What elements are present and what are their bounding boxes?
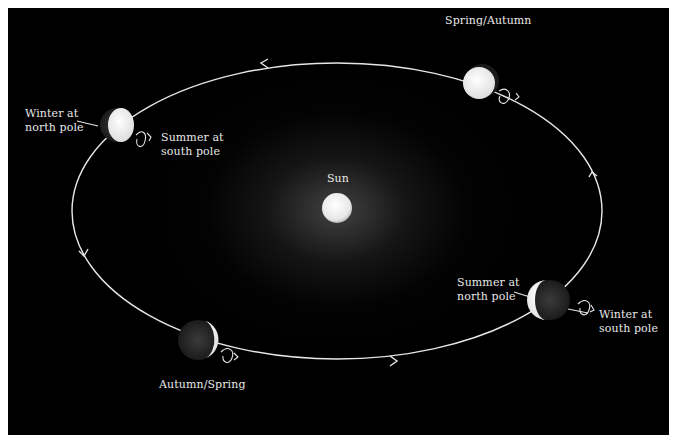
orbit-arrow-bottom	[390, 356, 397, 366]
summer-south-label-top-left: Summer at south pole	[161, 131, 224, 159]
orbit-arrow-left	[79, 249, 88, 256]
diagram-panel: Sun Winter at north pole Summer at south…	[8, 8, 669, 435]
earth-top-left	[77, 108, 151, 147]
autumn-spring-label: Autumn/Spring	[159, 378, 246, 392]
winter-south-label-bottom-right: Winter at south pole	[599, 308, 658, 336]
earth-bottom-left	[178, 320, 238, 362]
orbit-arrow-top	[261, 59, 268, 68]
orbit-diagram	[8, 8, 669, 435]
earth-top-right	[463, 64, 519, 103]
winter-north-label-top-left: Winter at north pole	[25, 107, 84, 135]
sun	[322, 193, 352, 223]
summer-north-label-bottom-right: Summer at north pole	[457, 276, 520, 304]
spring-autumn-label: Spring/Autumn	[445, 14, 532, 28]
orbit-arrow-right	[589, 172, 597, 177]
sun-label: Sun	[315, 172, 361, 186]
